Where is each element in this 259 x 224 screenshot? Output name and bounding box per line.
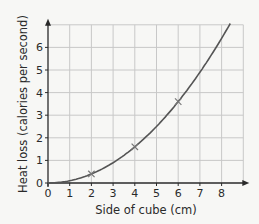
x-tick-label: 7 <box>196 187 203 200</box>
y-tick-label: 3 <box>36 109 43 122</box>
x-tick-label: 6 <box>175 187 182 200</box>
x-tick-label: 5 <box>153 187 160 200</box>
x-tick-label: 0 <box>45 187 52 200</box>
y-axis-arrow-icon <box>45 19 51 26</box>
x-axis-label: Side of cube (cm) <box>95 203 196 217</box>
y-tick-label: 2 <box>36 132 43 145</box>
x-tick-label: 8 <box>218 187 225 200</box>
y-tick-label: 1 <box>36 154 43 167</box>
y-axis-label: Heat loss (calories per second) <box>16 15 30 193</box>
y-tick-label: 0 <box>36 177 43 190</box>
x-tick-labels: 012345678 <box>45 183 226 200</box>
grid <box>48 25 243 183</box>
x-tick-label: 3 <box>110 187 117 200</box>
x-axis-arrow-icon <box>242 180 249 186</box>
y-tick-label: 5 <box>36 64 43 77</box>
x-tick-label: 4 <box>131 187 138 200</box>
y-tick-label: 4 <box>36 87 43 100</box>
x-tick-label: 2 <box>88 187 95 200</box>
y-tick-labels: 0123456 <box>36 41 48 190</box>
x-tick-label: 1 <box>66 187 73 200</box>
y-tick-label: 6 <box>36 41 43 54</box>
heat-loss-chart: 012345678 0123456 Side of cube (cm) Heat… <box>0 0 259 224</box>
